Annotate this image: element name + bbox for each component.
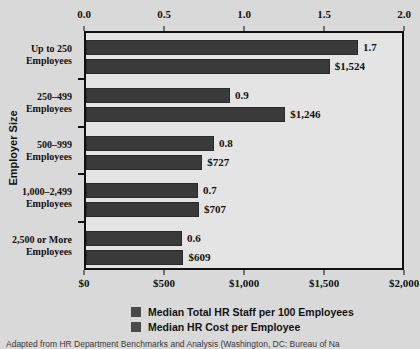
bar-group: 1.7$1,524 [86, 40, 402, 74]
bar-value-label: 0.9 [235, 87, 249, 103]
legend-swatch [131, 322, 141, 332]
bar-slot: $1,246 [86, 107, 402, 122]
bar-group: 0.7$707 [86, 183, 402, 217]
bar-value-label: $707 [204, 201, 226, 217]
bar[interactable] [86, 107, 285, 122]
category-label-line: Employees [0, 198, 72, 210]
category-label: 1,000–2,499Employees [0, 186, 72, 210]
legend-label: Median Total HR Staff per 100 Employees [148, 306, 354, 318]
category-label-line: 2,500 or More [0, 234, 72, 246]
bar-slot: 1.7 [86, 40, 402, 55]
bar-slot: 0.6 [86, 231, 402, 246]
category-label: 500–999Employees [0, 139, 72, 163]
top-axis-tick-label: 2.0 [397, 8, 411, 20]
bottom-axis-tick-mark [164, 270, 165, 275]
bottom-axis-tick-mark [404, 270, 405, 275]
bar-value-label: $727 [207, 154, 229, 170]
bar-group: 0.8$727 [86, 136, 402, 170]
category-label-line: Employees [0, 151, 72, 163]
legend-swatch [131, 307, 141, 317]
bar-value-label: 0.8 [219, 135, 233, 151]
bar-slot: $1,524 [86, 59, 402, 74]
bar[interactable] [86, 183, 198, 198]
top-axis-tick-label: 1.5 [317, 8, 331, 20]
bar[interactable] [86, 59, 330, 74]
bottom-axis-tick-mark [324, 270, 325, 275]
chart-legend: Median Total HR Staff per 100 EmployeesM… [131, 305, 354, 335]
bar-group: 0.9$1,246 [86, 88, 402, 122]
category-label-line: 500–999 [0, 139, 72, 151]
bar-value-label: 0.7 [203, 182, 217, 198]
category-label: 2,500 or MoreEmployees [0, 234, 72, 258]
bar[interactable] [86, 88, 230, 103]
bottom-axis-tick-label: $1,000 [229, 277, 259, 289]
bottom-axis-ticks [84, 270, 404, 275]
bar-slot: 0.8 [86, 136, 402, 151]
category-label-line: Employees [0, 55, 72, 67]
category-label-line: Employees [0, 103, 72, 115]
bottom-axis-tick-label: $500 [153, 277, 175, 289]
category-label: Up to 250Employees [0, 43, 72, 67]
bar-slot: $727 [86, 155, 402, 170]
bar-value-label: $1,524 [335, 58, 365, 74]
bar-value-label: 1.7 [363, 39, 377, 55]
bar-slot: $609 [86, 250, 402, 265]
bar-slot: 0.7 [86, 183, 402, 198]
category-label: 250–499Employees [0, 91, 72, 115]
bar[interactable] [86, 40, 358, 55]
bottom-axis-tick-label: $2,000 [389, 277, 419, 289]
category-label-line: 250–499 [0, 91, 72, 103]
bar[interactable] [86, 155, 202, 170]
bar-group: 0.6$609 [86, 231, 402, 265]
bar-slot: 0.9 [86, 88, 402, 103]
bottom-axis-tick-labels: $0$500$1,000$1,500$2,000 [84, 277, 404, 293]
bottom-axis-tick-mark [84, 270, 85, 275]
legend-item[interactable]: Median Total HR Staff per 100 Employees [131, 305, 354, 318]
bar-value-label: $1,246 [290, 106, 320, 122]
source-note: Adapted from HR Department Benchmarks an… [6, 339, 420, 349]
bar-value-label: 0.6 [187, 230, 201, 246]
bar-slot: $707 [86, 202, 402, 217]
bar[interactable] [86, 202, 199, 217]
category-label-line: Employees [0, 246, 72, 258]
top-axis-tick-label: 0.0 [77, 8, 91, 20]
legend-label: Median HR Cost per Employee [148, 321, 300, 333]
category-label-line: 1,000–2,499 [0, 186, 72, 198]
bar-value-label: $609 [188, 249, 210, 265]
bottom-axis-tick-mark [244, 270, 245, 275]
plot-area: 1.7$1,5240.9$1,2460.8$7270.7$7070.6$609 [84, 31, 404, 270]
top-axis-tick-label: 0.5 [157, 8, 171, 20]
top-axis-tick-labels: 0.00.51.01.52.0 [84, 8, 404, 24]
bottom-axis-tick-label: $1,500 [309, 277, 339, 289]
category-label-line: Up to 250 [0, 43, 72, 55]
bar[interactable] [86, 231, 182, 246]
category-labels: Up to 250Employees250–499Employees500–99… [0, 31, 78, 270]
legend-item[interactable]: Median HR Cost per Employee [131, 320, 354, 333]
top-axis-tick-label: 1.0 [237, 8, 251, 20]
bar[interactable] [86, 250, 183, 265]
bottom-axis-tick-label: $0 [79, 277, 90, 289]
bar[interactable] [86, 136, 214, 151]
